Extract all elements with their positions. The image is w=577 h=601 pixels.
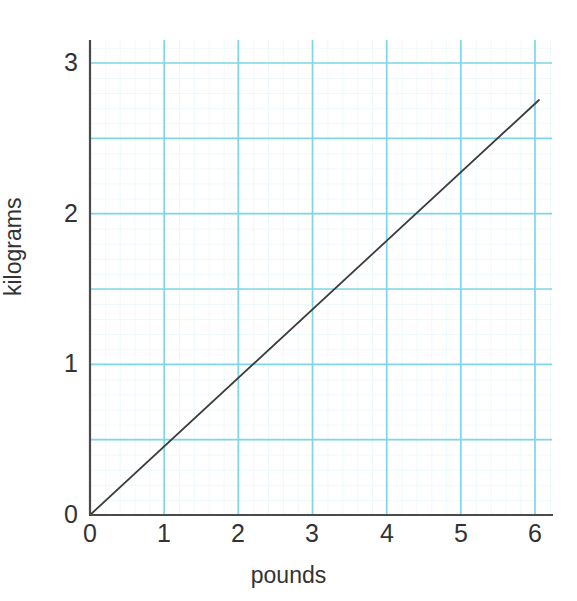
y-tick-label-0: 0 xyxy=(38,502,78,527)
y-axis-title: kilograms xyxy=(0,96,27,296)
x-tick-label-6: 6 xyxy=(515,521,555,546)
minor-gridlines xyxy=(90,40,552,515)
y-tick-label-1: 1 xyxy=(38,351,78,376)
y-tick-label-3: 3 xyxy=(38,50,78,75)
x-tick-label-4: 4 xyxy=(367,521,407,546)
y-tick-label-2: 2 xyxy=(38,201,78,226)
plot-area xyxy=(0,0,577,601)
x-tick-label-1: 1 xyxy=(144,521,184,546)
x-tick-label-3: 3 xyxy=(292,521,332,546)
x-tick-label-2: 2 xyxy=(218,521,258,546)
x-axis-title: pounds xyxy=(0,562,577,589)
x-tick-label-5: 5 xyxy=(441,521,481,546)
conversion-line-chart: 0 1 2 3 4 5 6 0 1 2 3 pounds kilograms xyxy=(0,0,577,601)
